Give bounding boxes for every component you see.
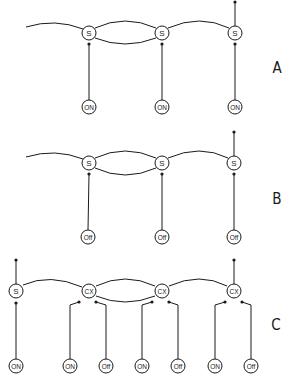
panel-c-nodes: S CX CX CX ON ON Off ON Off ON Off C [9, 284, 281, 373]
node-label: S [232, 29, 237, 38]
link-line [169, 302, 178, 359]
node-label: CX [157, 288, 167, 295]
node-label: ON [137, 363, 147, 370]
terminal-dot [232, 130, 235, 133]
panel-c-edges [14, 258, 251, 359]
node-label: ON [65, 363, 75, 370]
state-diagram: S S S ON ON ON A S S S Off Off Off B S C… [0, 0, 289, 381]
link-line [215, 302, 225, 359]
node-label: ON [230, 104, 240, 111]
node-label: S [86, 29, 91, 38]
node-label: Off [84, 234, 93, 241]
arc-s-cx1 [23, 279, 82, 287]
node-label: Off [102, 363, 111, 370]
panel-b-edges [26, 130, 236, 230]
terminal-dot [232, 258, 235, 261]
node-label: ON [11, 363, 21, 370]
node-label: S [231, 159, 236, 168]
connector-dot [87, 42, 90, 45]
node-label: Off [230, 234, 239, 241]
incoming-arc [26, 23, 83, 29]
terminal-dot [14, 258, 17, 261]
node-label: Off [247, 363, 256, 370]
node-label: ON [210, 363, 220, 370]
node-label: Off [158, 234, 167, 241]
panel-a-edges [26, 0, 237, 100]
node-label: CX [229, 288, 239, 295]
connector-dot [150, 300, 153, 303]
node-label: Off [174, 363, 183, 370]
arc-s2-s3 [168, 151, 228, 158]
panel-label-c: C [271, 316, 280, 334]
connector-dot [233, 42, 236, 45]
node-label: S [86, 159, 91, 168]
node-label: ON [84, 104, 94, 111]
connector-dot [167, 300, 170, 303]
link-line [242, 302, 251, 359]
node-label: S [159, 159, 164, 168]
connector-dot [87, 172, 90, 175]
connector-dot [223, 300, 226, 303]
node-label: CX [84, 288, 94, 295]
connector-dot [232, 172, 235, 175]
link-line [142, 302, 152, 359]
node-label: S [13, 287, 18, 296]
arc-s2-s1-lower [95, 38, 156, 44]
terminal-dot [233, 0, 236, 3]
arc-s1-s2-lower [95, 168, 156, 175]
connector-dot [77, 300, 80, 303]
connector-dot [160, 172, 163, 175]
arc-cx2-cx3 [169, 279, 227, 286]
panel-b-nodes: S S S Off Off Off B [81, 156, 282, 244]
link-line [96, 302, 106, 359]
incoming-arc [26, 153, 83, 159]
arc-s1-s2-upper [95, 21, 156, 28]
connector-dot [94, 300, 97, 303]
node-label: ON [157, 104, 167, 111]
connector-dot [14, 301, 17, 304]
arc-s2-s3 [168, 21, 229, 28]
connector-dot [160, 42, 163, 45]
arc-cx1-cx2-upper [96, 279, 155, 286]
arc-cx1-cx2-lower [96, 296, 155, 302]
link-line [88, 174, 89, 230]
link-line [70, 302, 79, 359]
node-label: S [159, 29, 164, 38]
connector-dot [240, 300, 243, 303]
panel-label-b: B [272, 190, 281, 208]
panel-label-a: A [272, 59, 282, 77]
arc-s1-s2-upper [95, 151, 156, 158]
panel-a-nodes: S S S ON ON ON A [82, 26, 282, 114]
